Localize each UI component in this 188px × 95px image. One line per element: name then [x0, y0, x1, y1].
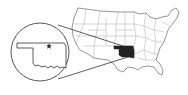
map-svg — [0, 0, 188, 95]
us-map — [72, 8, 179, 75]
locator-map — [0, 0, 188, 95]
